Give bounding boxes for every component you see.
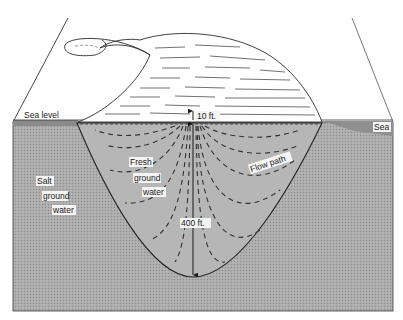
fresh-label-1: Fresh: [130, 157, 152, 167]
fresh-label-3: water: [142, 187, 164, 197]
depth-label: 400 ft.: [181, 218, 205, 228]
fresh-label-2: ground: [134, 173, 161, 183]
head-label: 10 ft.: [197, 111, 216, 121]
island-mound: [78, 33, 322, 122]
left-perspective-edge: [13, 18, 68, 122]
sea-label: Sea: [374, 122, 389, 132]
salt-label-2: ground: [43, 191, 70, 201]
curl-hatch: [75, 45, 100, 50]
island-freshwater-lens-diagram: Sea level Sea 10 ft. Salt ground water F…: [0, 0, 403, 320]
salt-label-3: water: [52, 205, 74, 215]
right-perspective-edge: [352, 18, 393, 122]
sea-level-label: Sea level: [24, 110, 59, 120]
sea-band-left: [13, 120, 78, 126]
salt-label-1: Salt: [37, 176, 52, 186]
